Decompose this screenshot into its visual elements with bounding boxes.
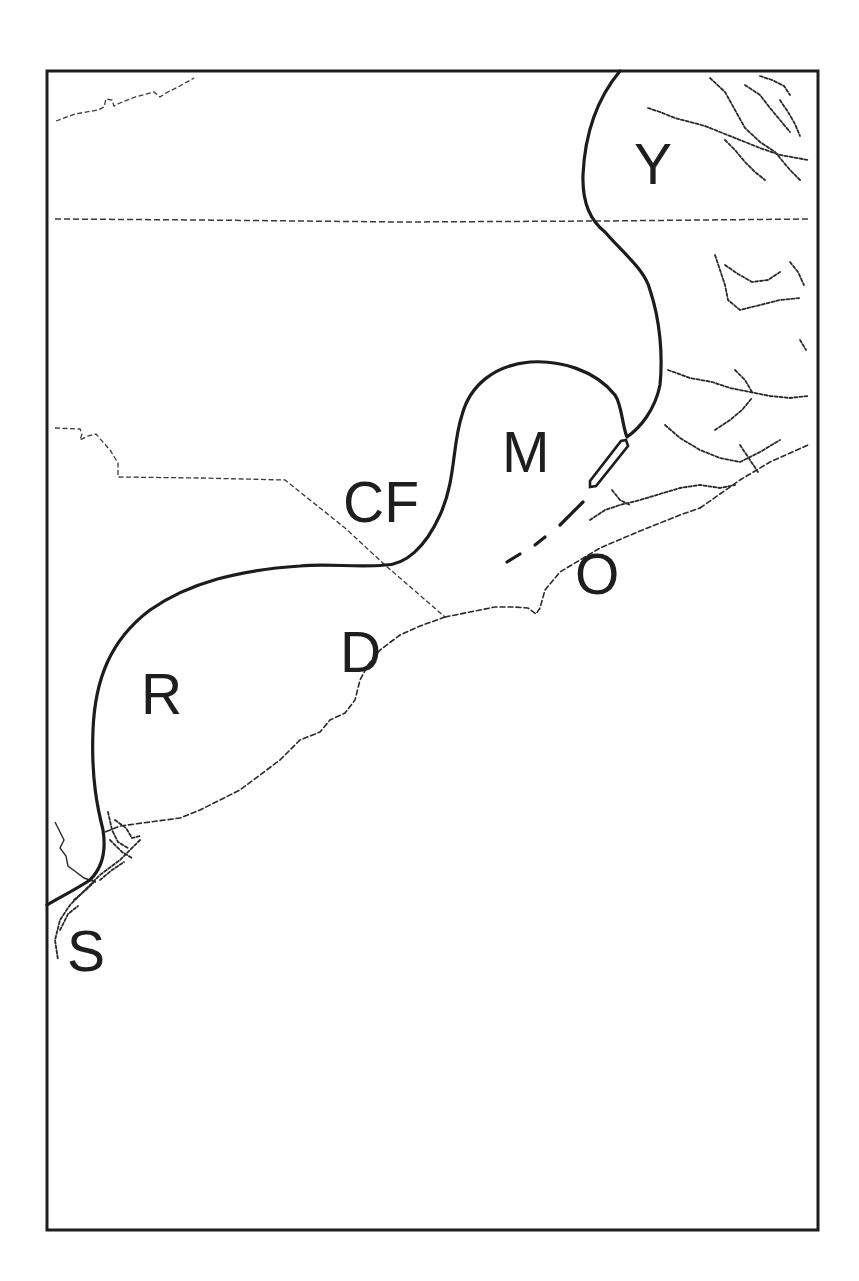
river-southwest: [55, 822, 96, 882]
region-label-o: O: [575, 546, 619, 603]
map-canvas: [0, 0, 859, 1281]
region-label-s: S: [67, 923, 105, 980]
region-label-y: Y: [634, 136, 672, 193]
region-label-cf: CF: [343, 474, 419, 531]
top-left-border-line: [56, 78, 194, 121]
map-frame: [47, 71, 818, 1230]
region-label-m: M: [502, 424, 549, 481]
region-label-d: D: [340, 624, 381, 681]
map: Y M CF O D R S: [0, 0, 859, 1281]
region-label-r: R: [141, 666, 182, 723]
coastline-south: [445, 508, 700, 617]
estuary-detail-south: [60, 812, 140, 930]
state-border-horizontal: [55, 219, 808, 222]
